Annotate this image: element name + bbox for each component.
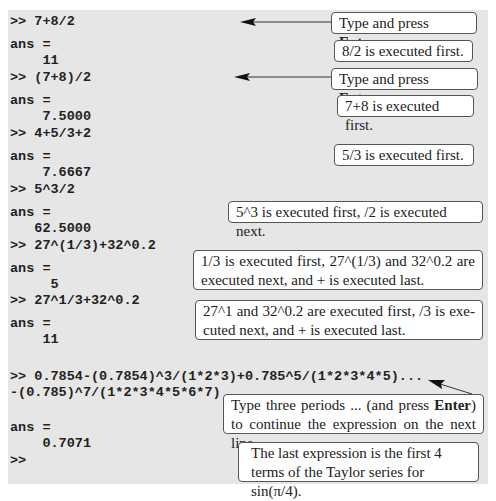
arrow-icon bbox=[234, 73, 331, 81]
arrow-icon bbox=[428, 380, 472, 394]
arrow-icon bbox=[240, 18, 331, 26]
